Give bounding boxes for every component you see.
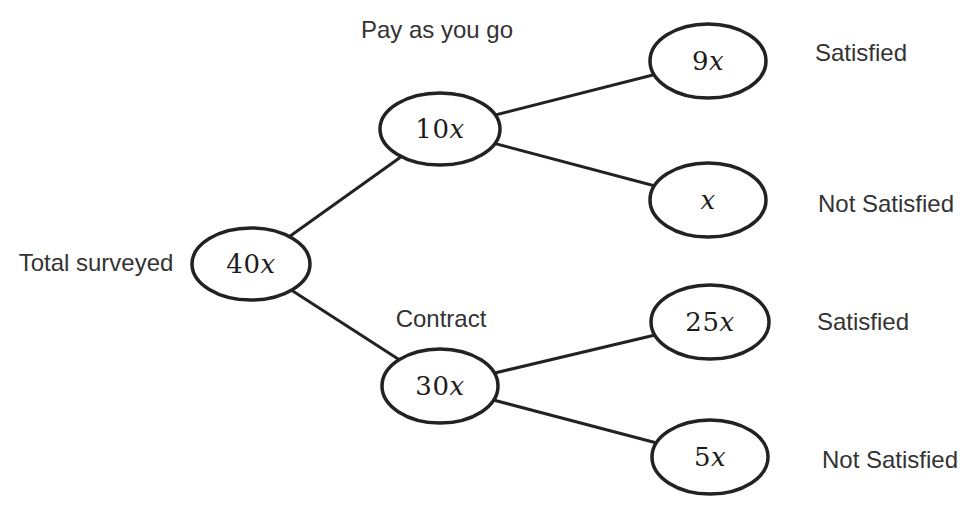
tree-diagram: 40x 10x 9x x 30x 25x 5x Total surveyed P… [0,0,968,505]
label-total-surveyed: Total surveyed [19,251,174,275]
label-contract-satisfied: Satisfied [817,310,909,334]
label-pay-as-you-go: Pay as you go [361,18,513,42]
node-value-contract-satisfied-coefficient: 25 [685,307,719,337]
label-payg-not-satisfied: Not Satisfied [818,192,954,216]
node-value-payg-not-satisfied-variable: x [700,185,715,215]
node-value-contract-satisfied-variable: x [719,307,734,337]
label-contract: Contract [396,307,487,331]
node-value-contract-coefficient: 30 [415,371,449,401]
node-value-contract-variable: x [449,371,464,401]
node-value-contract: 30x [415,373,464,399]
node-value-total-coefficient: 40 [226,249,260,279]
node-value-contract-not-satisfied-coefficient: 5 [694,442,711,472]
node-value-payg-coefficient: 10 [415,114,449,144]
node-value-payg-satisfied-variable: x [709,46,724,76]
node-value-payg: 10x [415,116,464,142]
node-value-total: 40x [226,251,275,277]
node-value-contract-satisfied: 25x [685,309,734,335]
node-value-contract-not-satisfied-variable: x [711,442,726,472]
node-value-contract-not-satisfied: 5x [694,444,726,470]
node-value-total-variable: x [260,249,275,279]
node-value-payg-satisfied: 9x [692,48,724,74]
node-value-payg-satisfied-coefficient: 9 [692,46,709,76]
label-payg-satisfied: Satisfied [815,41,907,65]
label-contract-not-satisfied: Not Satisfied [822,448,958,472]
node-value-payg-variable: x [449,114,464,144]
node-value-payg-not-satisfied: x [700,187,715,213]
